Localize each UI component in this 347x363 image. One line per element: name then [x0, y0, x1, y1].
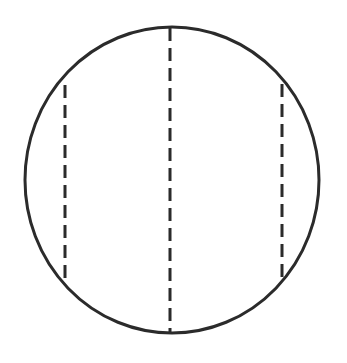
geometric-figure-svg: [0, 0, 347, 363]
circle-outline: [25, 27, 319, 333]
figure-canvas: [0, 0, 347, 363]
